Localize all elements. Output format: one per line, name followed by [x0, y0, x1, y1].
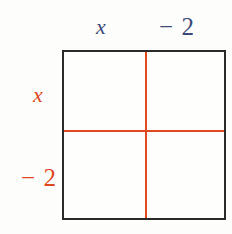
- area-model-figure: x − 2 x − 2: [0, 0, 232, 234]
- grid-cell-top-right[interactable]: [147, 52, 223, 130]
- grid-cell-top-left[interactable]: [64, 52, 145, 130]
- grid-cell-bottom-right[interactable]: [147, 132, 223, 217]
- grid-cell-bottom-left[interactable]: [64, 132, 145, 217]
- column-header-1: x: [88, 16, 114, 38]
- column-header-2: − 2: [152, 14, 202, 39]
- area-model-box: [62, 50, 226, 220]
- row-header-2: − 2: [12, 165, 66, 190]
- row-header-1: x: [24, 84, 52, 106]
